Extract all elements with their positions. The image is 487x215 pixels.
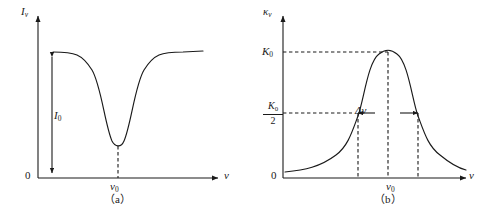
- panel-a-y-axis-label: Iv: [21, 6, 28, 19]
- panel-a-x-axis-label: v: [224, 170, 229, 181]
- panel-a-origin-label: 0: [25, 170, 31, 181]
- panel-b-y-axis-label: κv: [263, 6, 272, 19]
- panel-a-depth-label: I0: [54, 110, 61, 123]
- panel-a-center-frequency-label: v0: [110, 181, 119, 194]
- panel-a-group: [38, 16, 218, 178]
- panel-b-half-peak-label: K0 2: [261, 100, 285, 127]
- panel-b-fwhm-label: Δv: [355, 105, 366, 116]
- panel-b-x-axis-label: v: [469, 170, 474, 181]
- panel-b-center-frequency-label: v0: [386, 181, 395, 194]
- panel-a-absorption-curve: [53, 51, 203, 146]
- panel-b-origin-label: 0: [271, 170, 277, 181]
- panel-b-peak-label: K0: [262, 46, 273, 59]
- panel-a-caption: （a）: [104, 194, 131, 205]
- panel-b-group: [283, 16, 466, 178]
- panel-b-caption: （b）: [374, 194, 402, 205]
- panel-b-lorentzian-curve: [285, 50, 466, 172]
- two-panel-absorption-figure: [0, 0, 487, 215]
